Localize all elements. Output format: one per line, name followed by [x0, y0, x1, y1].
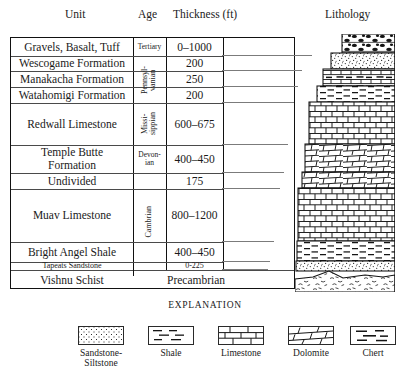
unit-cell: Bright Angel Shale	[11, 242, 133, 262]
age-cell-cambrian: Cambrian	[133, 173, 166, 270]
thickness-cell: 200	[166, 56, 223, 71]
unit-cell: Temple Butte Formation	[11, 145, 133, 173]
unit-cell: Wescogame Formation	[11, 56, 133, 71]
stratigraphic-column-figure: Unit Age Thickness (ft) Lithology Gravel…	[0, 0, 410, 372]
sandstone-pattern-swatch-icon	[78, 326, 124, 345]
age-label: Devon- ian	[138, 151, 161, 167]
thickness-cell: 250	[166, 71, 223, 87]
age-cell-tertiary: Tertiary	[133, 38, 166, 56]
explanation-title: EXPLANATION	[0, 300, 410, 310]
thickness-cell: 200	[166, 87, 223, 103]
unit-cell: Gravels, Basalt, Tuff	[11, 38, 133, 56]
header-unit: Unit	[65, 8, 85, 20]
guide-line	[222, 241, 274, 242]
age-cell-devonian: Devon- ian	[133, 145, 166, 173]
shale-pattern-swatch-icon	[148, 326, 194, 345]
unit-cell: Redwall Limestone	[11, 103, 133, 145]
header-age: Age	[138, 8, 157, 20]
age-label: Cambrian	[145, 206, 153, 238]
legend-label: Shale	[141, 348, 201, 358]
unit-cell: Tapeats Sandstone	[11, 262, 133, 270]
thickness-cell: 0-225	[166, 262, 223, 270]
legend-item-sandstone: Sandstone- Siltstone	[78, 326, 131, 369]
thickness-cell: 800–1200	[166, 189, 223, 242]
legend-item-chert: Chert	[350, 326, 401, 358]
legend-item-shale: Shale	[148, 326, 201, 358]
thickness-cell: 0–1000	[166, 38, 223, 56]
thickness-cell: 400–450	[166, 145, 223, 173]
age-label: Pennsyl- vanian	[141, 66, 158, 94]
column-divider-thickness-lith	[223, 38, 224, 270]
guide-line	[222, 261, 270, 262]
guide-line	[222, 70, 302, 71]
chert-pattern-swatch-icon	[350, 326, 396, 345]
thickness-cell: 175	[166, 173, 223, 189]
age-label: Missi- sippian	[141, 112, 158, 135]
basement-age-label: Precambrian	[167, 270, 297, 290]
unit-cell: Watahomigi Formation	[11, 87, 133, 103]
guide-line	[222, 188, 280, 189]
dolomite-pattern-swatch-icon	[288, 326, 334, 345]
guide-line	[222, 172, 284, 173]
stratigraphy-table: Gravels, Basalt, Tuff Wescogame Formatio…	[10, 37, 295, 289]
thickness-cell: 600–675	[166, 103, 223, 145]
legend-item-dolomite: Dolomite	[288, 326, 341, 358]
guide-line	[222, 102, 294, 103]
guide-line	[222, 144, 288, 145]
lithology-column	[295, 34, 395, 292]
guide-line	[222, 269, 268, 270]
age-cell-pennsylvanian: Pennsyl- vanian	[133, 56, 166, 103]
basement-unit-label: Vishnu Schist	[11, 270, 133, 290]
header-thickness: Thickness (ft)	[173, 8, 237, 20]
thickness-cell: 400–450	[166, 242, 223, 262]
legend-item-limestone: Limestone	[218, 326, 271, 358]
legend-label: Chert	[345, 348, 401, 358]
guide-line	[222, 86, 298, 87]
limestone-pattern-swatch-icon	[218, 326, 264, 345]
age-cell-mississippian: Missi- sippian	[133, 103, 166, 145]
age-label: Tertiary	[138, 43, 162, 51]
unit-cell: Manakacha Formation	[11, 71, 133, 87]
unit-cell: Undivided	[11, 173, 133, 189]
precambrian-divider-tick	[133, 270, 134, 276]
legend-label: Sandstone- Siltstone	[71, 348, 131, 369]
unit-cell: Muav Limestone	[11, 189, 133, 242]
legend-label: Limestone	[211, 348, 271, 358]
legend-label: Dolomite	[281, 348, 341, 358]
header-lithology: Lithology	[325, 8, 370, 20]
